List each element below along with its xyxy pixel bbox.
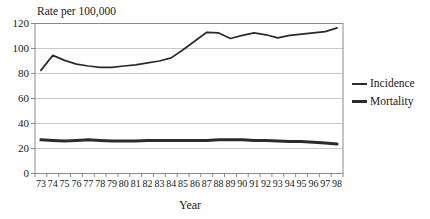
legend-label-mortality: Mortality (370, 95, 413, 108)
x-tick-label: 92 (261, 178, 271, 189)
x-tick-label: 84 (166, 178, 176, 189)
y-tick-label: 120 (13, 17, 30, 29)
mortality-line-swatch (352, 100, 367, 104)
x-tick-label: 88 (214, 178, 224, 189)
legend-item-mortality: Mortality (352, 95, 415, 108)
line-chart-plot: 0204060801001207374757677787980818283848… (0, 0, 430, 219)
y-tick-label: 0 (24, 167, 30, 179)
y-tick-label: 100 (13, 42, 30, 54)
x-tick-label: 78 (95, 178, 105, 189)
x-tick-label: 97 (320, 178, 330, 189)
x-tick-label: 85 (178, 178, 188, 189)
x-tick-label: 82 (143, 178, 153, 189)
chart-figure: Rate per 100,000 02040608010012073747576… (0, 0, 430, 219)
x-tick-label: 76 (71, 178, 81, 189)
legend: Incidence Mortality (352, 77, 415, 108)
y-tick-label: 60 (18, 92, 30, 104)
x-tick-label: 81 (131, 178, 141, 189)
x-tick-label: 75 (60, 178, 70, 189)
y-tick-label: 80 (18, 67, 30, 79)
x-tick-label: 83 (154, 178, 164, 189)
y-tick-label: 20 (18, 142, 30, 154)
x-tick-label: 86 (190, 178, 200, 189)
x-tick-label: 90 (237, 178, 247, 189)
legend-label-incidence: Incidence (370, 77, 415, 90)
legend-item-incidence: Incidence (352, 77, 415, 90)
x-tick-label: 74 (48, 178, 58, 189)
x-tick-label: 77 (83, 178, 93, 189)
x-tick-label: 87 (202, 178, 212, 189)
incidence-line-swatch (352, 83, 367, 85)
x-tick-label: 94 (285, 178, 295, 189)
x-tick-label: 98 (332, 178, 342, 189)
mortality-line (41, 140, 337, 144)
x-tick-label: 93 (273, 178, 283, 189)
x-tick-label: 80 (119, 178, 129, 189)
x-axis-title: Year (35, 198, 345, 212)
x-tick-label: 73 (36, 178, 46, 189)
y-tick-label: 40 (18, 117, 30, 129)
incidence-line (41, 28, 337, 71)
x-tick-label: 79 (107, 178, 117, 189)
x-tick-label: 96 (308, 178, 318, 189)
x-tick-label: 91 (249, 178, 259, 189)
x-tick-label: 89 (225, 178, 235, 189)
x-tick-label: 95 (297, 178, 307, 189)
